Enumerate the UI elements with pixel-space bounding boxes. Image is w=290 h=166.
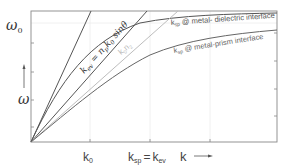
light-line-curve	[31, 11, 91, 142]
dispersion-diagram: kev = npk0 sinθ k0n2 ksp @ metal- dielec…	[0, 0, 290, 166]
evanescent-line-curve	[31, 11, 147, 142]
ksp-kev-label: ksp=kev	[128, 150, 166, 165]
sp-metal-dielectric-label: ksp @ metal- dielectric interface	[171, 11, 276, 28]
kn2-line-curve	[31, 11, 178, 142]
sp-metal-prism-curve	[31, 30, 277, 142]
omega0-label: ω0	[6, 17, 23, 35]
sp-metal-prism-label: ksp @ metal-prism interface	[173, 32, 264, 56]
x-axis-arrow-icon	[194, 155, 213, 158]
x-axis-label: k	[180, 149, 187, 164]
svg-text:ksp @ metal- dielectric interf: ksp @ metal- dielectric interface	[171, 11, 276, 28]
y-axis-label: ω	[18, 91, 30, 107]
axis-ticks	[31, 33, 277, 142]
grid	[31, 11, 277, 142]
plot-frame	[31, 11, 277, 142]
svg-text:ksp @ metal-prism interface: ksp @ metal-prism interface	[173, 32, 264, 56]
y-axis-arrow-icon	[23, 64, 26, 88]
k0-label: k0	[83, 150, 93, 164]
